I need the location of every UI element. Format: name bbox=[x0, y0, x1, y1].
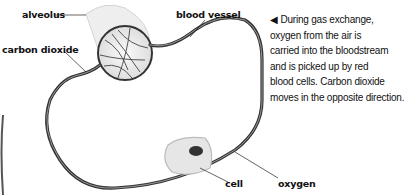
label-alveolus: alveolus bbox=[22, 9, 65, 20]
cell-shape bbox=[165, 137, 212, 174]
caption-line-5: blood cells. Carbon dioxide bbox=[270, 74, 370, 90]
label-carbon-dioxide: carbon dioxide bbox=[2, 44, 79, 55]
label-blood-vessel: blood vessel bbox=[176, 9, 240, 20]
left-arrow-icon: ◀ bbox=[270, 14, 278, 25]
caption-line-6: moves in the opposite direction. bbox=[270, 90, 370, 106]
caption-line-4: and is picked up by red bbox=[270, 59, 370, 75]
label-oxygen: oxygen bbox=[278, 178, 316, 189]
caption-line-2: oxygen from the air is bbox=[270, 28, 370, 44]
caption: ◀ During gas exchange, oxygen from the a… bbox=[270, 12, 370, 105]
blood-vessel bbox=[47, 18, 262, 189]
alveolus-sphere bbox=[98, 26, 152, 80]
caption-line-3: carried into the bloodstream bbox=[270, 43, 370, 59]
caption-line-1: ◀ During gas exchange, bbox=[270, 12, 370, 28]
label-cell: cell bbox=[225, 178, 243, 189]
